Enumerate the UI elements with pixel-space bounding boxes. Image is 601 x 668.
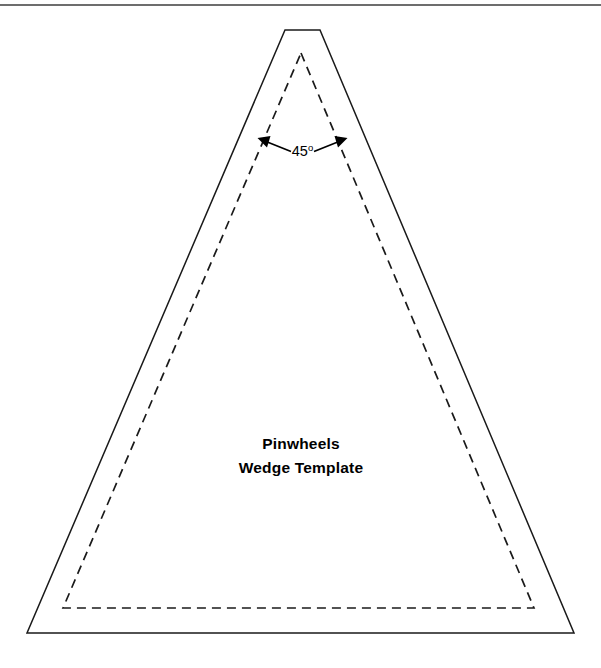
template-title-line-1: Pinwheels	[262, 435, 340, 452]
seam-allowance-outline	[63, 53, 534, 608]
degree-icon: o	[308, 142, 313, 153]
cutting-line-outline	[27, 30, 574, 633]
angle-value: 45	[292, 143, 308, 159]
angle-arrow-right	[314, 136, 348, 152]
template-title-line-2: Wedge Template	[239, 459, 364, 476]
wedge-template-drawing: 45o Pinwheels Wedge Template	[0, 0, 601, 668]
template-page: 45o Pinwheels Wedge Template	[0, 0, 601, 668]
angle-label: 45o	[292, 142, 313, 160]
